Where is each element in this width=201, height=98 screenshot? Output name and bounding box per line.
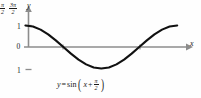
caption-fraction-pi-over-2: π 2 <box>94 78 99 91</box>
fraction-denominator: 2 <box>94 84 99 91</box>
equation-caption: y = sin ( x + π 2 ) <box>57 78 105 91</box>
caption-open-paren: ( <box>78 79 81 91</box>
y-tick-label-negative-one: 1 <box>17 67 21 75</box>
y-tick-label-zero: 0 <box>17 43 21 51</box>
x-axis-label: x <box>190 40 194 48</box>
sine-graph-figure: 1 0 1 y x π 2 3π 2 y = sin ( x + π 2 ) <box>0 0 201 98</box>
caption-plus: + <box>88 81 93 89</box>
caption-close-paren: ) <box>100 79 103 91</box>
caption-lhs: y <box>57 81 61 89</box>
y-tick-label-one: 1 <box>17 23 21 31</box>
caption-arg-variable: x <box>83 81 87 89</box>
fraction-numerator: π <box>94 78 99 84</box>
y-axis-label: y <box>27 2 31 10</box>
caption-equals: = <box>62 81 67 89</box>
caption-sin: sin <box>67 81 76 89</box>
